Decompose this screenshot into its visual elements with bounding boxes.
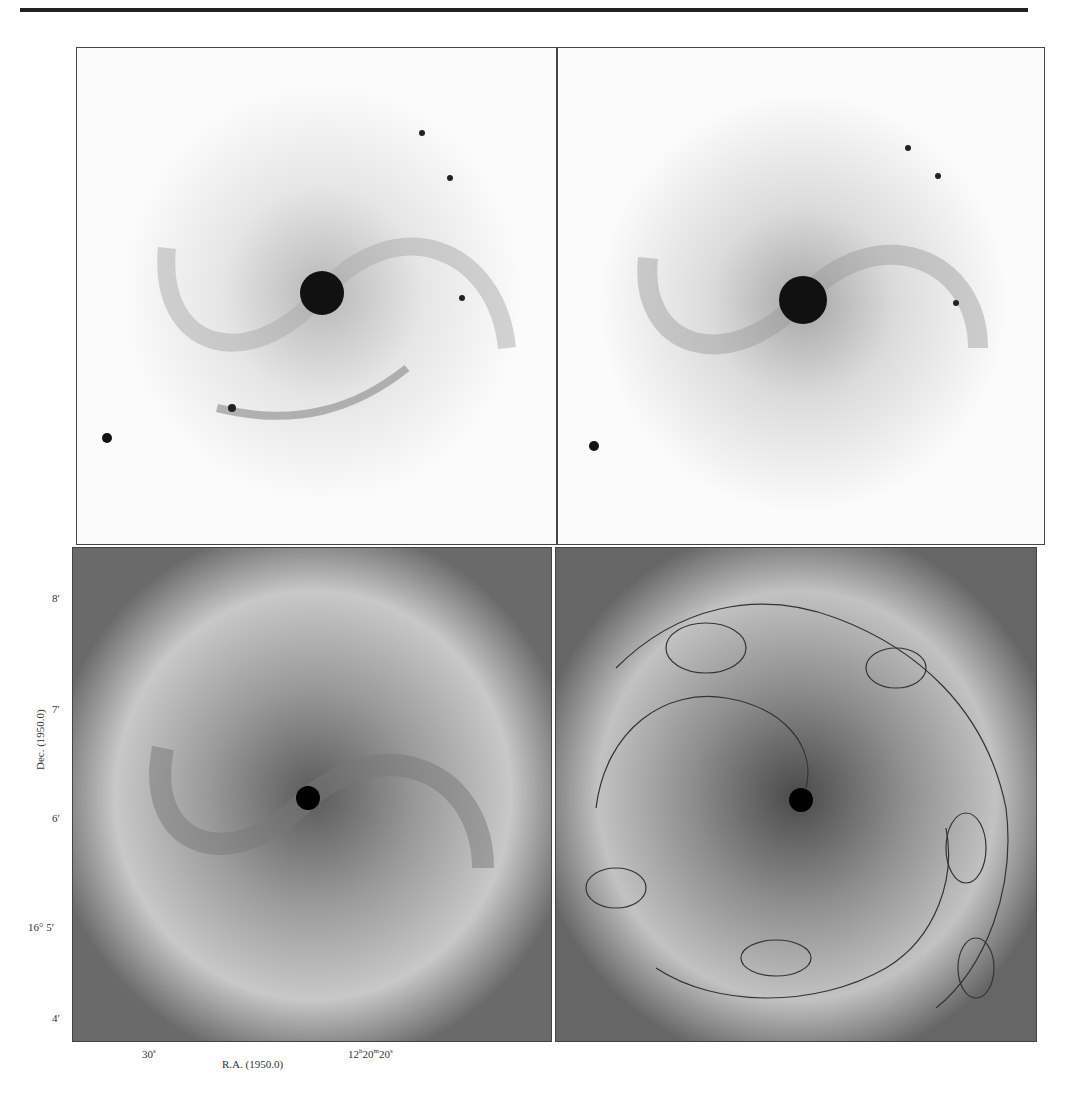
colour-map-bottom-left — [73, 548, 552, 1042]
y-tick-16deg-5: 16° 5′ — [28, 921, 54, 933]
panel-bottom-right-colour-map-contours — [555, 547, 1037, 1042]
x-axis-title: R.A. (1950.0) — [222, 1058, 283, 1070]
header-rule — [20, 8, 1028, 12]
y-tick-7: 7′ — [52, 703, 60, 715]
x-tick-12h20m20s: 12h20m20s — [348, 1047, 393, 1060]
x-tick-30s: 30s — [142, 1047, 156, 1060]
x-tick-30s-unit: s — [153, 1047, 156, 1055]
x-tick-minutes: 20 — [363, 1048, 374, 1060]
x-tick-s-unit: s — [390, 1047, 393, 1055]
y-tick-4: 4′ — [52, 1012, 60, 1024]
x-tick-seconds: 20 — [379, 1048, 390, 1060]
x-tick-30s-value: 30 — [142, 1048, 153, 1060]
panel-top-right-optical-image — [557, 47, 1045, 545]
y-axis-title: Dec. (1950.0) — [34, 709, 46, 770]
colour-map-bottom-right — [556, 548, 1037, 1042]
galaxy-image-top-left — [77, 48, 557, 545]
galaxy-image-top-right — [558, 48, 1045, 545]
y-tick-6: 6′ — [52, 812, 60, 824]
y-tick-8: 8′ — [52, 592, 60, 604]
panel-top-left-optical-image — [76, 47, 557, 545]
panel-bottom-left-colour-map — [72, 547, 552, 1042]
x-tick-hours: 12 — [348, 1048, 359, 1060]
